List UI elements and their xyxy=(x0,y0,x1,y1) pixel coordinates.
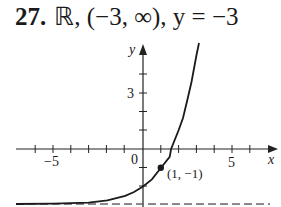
x-tick-label-neg5: −5 xyxy=(44,154,59,169)
x-axis-label: x xyxy=(267,152,275,167)
y-tick-label-3: 3 xyxy=(127,86,134,101)
y-axis-label: y xyxy=(127,42,136,57)
y-axis-arrow-icon xyxy=(139,44,147,55)
x-tick-label-5: 5 xyxy=(228,155,235,170)
origin-label: 0 xyxy=(131,152,138,167)
graph: −5 0 5 3 x y (1, −1) xyxy=(0,0,281,207)
point-label: (1, −1) xyxy=(167,166,203,181)
point-marker xyxy=(158,165,164,171)
